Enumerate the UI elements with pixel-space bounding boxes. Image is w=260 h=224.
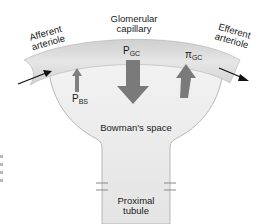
bowmans-space-label: Bowman's space bbox=[88, 123, 184, 133]
pigc-label: πGC bbox=[185, 50, 202, 61]
force-subscript: BS bbox=[79, 98, 88, 105]
caption-fragment bbox=[0, 179, 3, 182]
force-subscript: GC bbox=[192, 54, 203, 61]
caption-fragment bbox=[0, 171, 3, 174]
pbs-label: PBS bbox=[72, 94, 88, 105]
glomerular-capillary-label: Glomerular capillary bbox=[106, 14, 162, 34]
label-line: capillary bbox=[106, 24, 162, 34]
caption-fragment bbox=[0, 155, 3, 158]
force-subscript: GC bbox=[130, 50, 141, 57]
caption-fragment bbox=[0, 163, 3, 166]
pgc-label: PGC bbox=[123, 46, 140, 57]
label-line: tubule bbox=[106, 206, 166, 216]
proximal-tubule-label: Proximal tubule bbox=[106, 196, 166, 216]
tubule-gap bbox=[103, 184, 169, 189]
force-symbol: P bbox=[72, 93, 79, 104]
force-symbol: P bbox=[123, 45, 130, 56]
force-symbol: π bbox=[185, 49, 192, 60]
